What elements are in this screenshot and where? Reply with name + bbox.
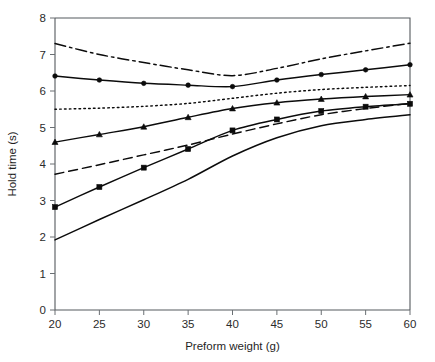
data-point-marker: [408, 101, 413, 106]
x-axis-tick-label: 40: [226, 318, 239, 330]
data-point-marker: [141, 165, 146, 170]
data-point-marker: [186, 83, 191, 88]
data-point-marker: [319, 109, 324, 114]
data-point-marker: [186, 147, 191, 152]
plot-background: [55, 18, 410, 310]
x-axis-tick-label: 55: [359, 318, 372, 330]
data-point-marker: [53, 205, 58, 210]
data-point-marker: [53, 74, 58, 79]
y-axis-tick-label: 2: [40, 231, 46, 243]
chart-container: 012345678202530354045505560Preform weigh…: [0, 0, 435, 362]
x-axis-tick-label: 20: [49, 318, 62, 330]
data-point-marker: [97, 78, 102, 83]
line-chart: 012345678202530354045505560Preform weigh…: [0, 0, 435, 362]
x-axis-tick-label: 35: [182, 318, 195, 330]
data-point-marker: [230, 128, 235, 133]
y-axis-title: Hold time (s): [6, 131, 18, 196]
y-axis-tick-label: 7: [40, 49, 46, 61]
x-axis-tick-label: 25: [93, 318, 106, 330]
y-axis-tick-label: 3: [40, 195, 46, 207]
y-axis-tick-label: 5: [40, 122, 46, 134]
x-axis-tick-label: 60: [404, 318, 417, 330]
x-axis-title: Preform weight (g): [185, 340, 280, 352]
data-point-marker: [363, 104, 368, 109]
data-point-marker: [408, 62, 413, 67]
data-point-marker: [230, 84, 235, 89]
x-axis-tick-label: 50: [315, 318, 328, 330]
y-axis-tick-label: 4: [40, 158, 47, 170]
data-point-marker: [141, 81, 146, 86]
x-axis-tick-label: 45: [270, 318, 283, 330]
y-axis-tick-label: 0: [40, 304, 46, 316]
data-point-marker: [274, 117, 279, 122]
data-point-marker: [363, 68, 368, 73]
y-axis-tick-label: 1: [40, 268, 46, 280]
data-point-marker: [97, 184, 102, 189]
y-axis-tick-label: 6: [40, 85, 46, 97]
y-axis-tick-label: 8: [40, 12, 46, 24]
data-point-marker: [275, 78, 280, 83]
x-axis-tick-label: 30: [137, 318, 150, 330]
data-point-marker: [319, 72, 324, 77]
